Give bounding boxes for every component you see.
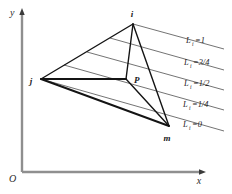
contour-label-1-rest: =1 [195, 36, 205, 45]
contour-label-1-main: L [185, 36, 191, 45]
vertex-label-m: m [163, 133, 170, 143]
contour-label-1-2: L i =1/2 [183, 79, 209, 90]
contour-label-1-4-rest: =1/4 [192, 100, 208, 109]
contour-label-1-sub: i [192, 41, 194, 47]
axis-label-y: y [9, 7, 15, 18]
contour-label-1-4-sub: i [189, 105, 191, 111]
contour-label-0: L i =0 [182, 120, 203, 131]
edge-i-p [126, 24, 133, 79]
contour-label-3-4-main: L [183, 58, 189, 67]
contour-label-0-main: L [182, 120, 188, 129]
edge-m-j [41, 79, 169, 126]
contour-label-1-2-sub: i [190, 84, 192, 90]
axis-label-x: x [196, 175, 202, 186]
contour-line-1 [133, 24, 224, 49]
contour-label-1-2-main: L [183, 79, 189, 88]
axis-label-origin: O [9, 173, 16, 184]
y-axis-arrowhead [19, 8, 24, 15]
figure-canvas: i j m P y x O L i =1 L i =3/4 L i =1/2 L… [0, 0, 232, 194]
contour-label-3-4-rest: =3/4 [193, 58, 209, 67]
axes-group [19, 8, 206, 175]
vertex-label-i: i [131, 9, 134, 19]
triangle-edges-group [41, 24, 169, 126]
contour-label-0-sub: i [189, 125, 191, 131]
x-axis-arrowhead [199, 169, 206, 174]
vertex-label-j: j [28, 76, 33, 86]
contour-label-1-2-rest: =1/2 [193, 79, 209, 88]
edge-j-i [41, 24, 133, 79]
contour-label-1-4: L i =1/4 [182, 100, 208, 111]
contour-label-3-4: L i =3/4 [183, 58, 209, 69]
contour-label-0-rest: =0 [192, 120, 203, 129]
contour-label-1-4-main: L [182, 100, 188, 109]
contour-label-3-4-sub: i [190, 63, 192, 69]
contour-label-1: L i =1 [185, 36, 205, 47]
vertex-label-p: P [134, 75, 140, 85]
